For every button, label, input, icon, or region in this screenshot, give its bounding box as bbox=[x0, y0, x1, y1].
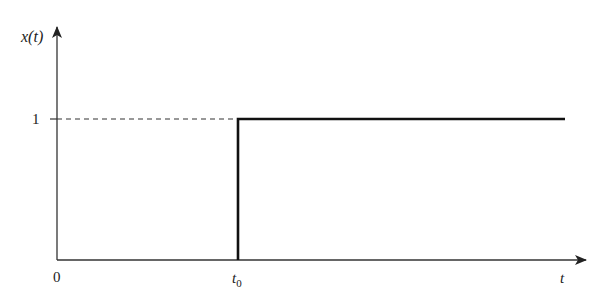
origin-label: 0 bbox=[53, 269, 61, 285]
x-axis-label: t bbox=[560, 270, 565, 286]
y-tick-label-1: 1 bbox=[32, 111, 40, 127]
step-signal bbox=[238, 119, 565, 260]
y-axis-label: x(t) bbox=[20, 28, 43, 46]
x-tick-label-t0: t0 bbox=[232, 270, 242, 289]
step-function-chart: x(t) 1 0 t0 t bbox=[0, 0, 601, 299]
